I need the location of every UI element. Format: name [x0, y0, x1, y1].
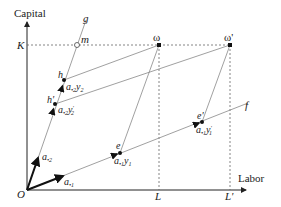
a2-label: a•2	[42, 151, 52, 163]
m-label: m	[81, 33, 89, 45]
omega-label: ω	[153, 31, 160, 43]
vector-a1	[27, 176, 63, 190]
e-prime-label: e'	[197, 110, 204, 121]
f-label: f	[245, 99, 250, 111]
point-omega-prime	[228, 43, 232, 47]
capital-labor-diagram: Capital Labor O K L L' g f m ω ω' h h' e…	[0, 0, 281, 207]
e-label: e	[116, 140, 121, 151]
line-e-prime-omega-prime	[202, 45, 230, 122]
a1-label: a•1	[64, 176, 74, 188]
a1y1-label: a•1y1	[114, 155, 132, 167]
vector-a2	[27, 158, 38, 190]
g-label: g	[83, 12, 89, 24]
line-h-prime-omega-prime	[55, 45, 230, 104]
a2y2-prime-label: a•2y′2	[58, 104, 75, 116]
origin-label: O	[17, 188, 25, 200]
h-prime-label: h'	[47, 94, 55, 105]
a1y1-prime-label: a•1y′1	[196, 124, 213, 136]
arrow-a2y2	[61, 86, 63, 91]
point-omega	[157, 43, 161, 47]
h-label: h	[58, 69, 63, 80]
labor-label: Labor	[238, 172, 265, 184]
capital-label: Capital	[14, 7, 46, 19]
line-h-omega	[64, 45, 159, 80]
line-e-omega	[120, 45, 159, 153]
a2y2-label: a•2y2	[66, 81, 84, 93]
k-label: K	[16, 39, 25, 51]
point-m	[75, 43, 80, 48]
l-label: L	[154, 190, 161, 202]
l-prime-label: L'	[224, 190, 234, 202]
omega-prime-label: ω'	[224, 31, 233, 43]
